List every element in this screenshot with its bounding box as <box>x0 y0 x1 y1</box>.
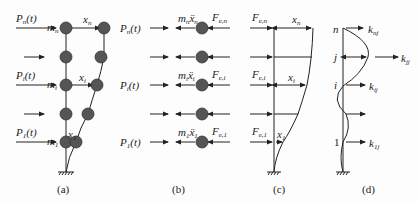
label-kij: kij <box>369 81 378 94</box>
label-c-xi: xi <box>288 72 295 85</box>
label-c-xn: xn <box>292 14 300 27</box>
caption-b: (b) <box>172 184 185 195</box>
label-P1: P1(t) <box>16 127 37 140</box>
deformed-column <box>66 28 104 172</box>
label-b-Pn: Pn(t) <box>120 23 141 36</box>
label-xi: xi <box>79 72 86 85</box>
label-b-Fei: Fe,i <box>212 69 226 82</box>
caption-d: (d) <box>362 184 375 195</box>
panel-c <box>250 28 313 175</box>
label-Pi: Pi(t) <box>16 70 35 83</box>
ground-hatch-icon <box>336 172 350 175</box>
label-m1: m1 <box>47 136 58 149</box>
ground-hatch-icon <box>267 172 281 175</box>
label-level-1: 1 <box>334 137 340 148</box>
label-mn: mn <box>47 22 58 35</box>
label-Pn: Pn(t) <box>16 13 37 26</box>
label-c-Fen: Fe,n <box>252 12 267 25</box>
label-c-Fe1: Fe,1 <box>252 126 267 139</box>
label-level-j: j <box>334 52 337 63</box>
label-c-x1: x1 <box>277 129 285 142</box>
label-b-Fen: Fe,n <box>212 12 227 25</box>
label-b-P1: P1(t) <box>120 137 141 150</box>
label-level-n: n <box>333 24 339 35</box>
diagram-drawing <box>0 0 419 204</box>
panel-a <box>16 28 104 175</box>
label-kjj: kjj <box>401 53 410 66</box>
label-xn: xn <box>83 14 91 27</box>
panel-d <box>336 28 398 175</box>
label-b-Fe1: Fe,1 <box>212 126 227 139</box>
structural-dynamics-figure: Pn(t) Pi(t) P1(t) mn mi m1 xn xi x1 Pn(t… <box>0 0 419 204</box>
label-k1j: k1j <box>369 138 379 151</box>
label-inertia-i: miẍi <box>178 70 195 83</box>
label-x1: x1 <box>68 129 76 142</box>
label-c-Fei: Fe,i <box>252 69 266 82</box>
ground-hatch-icon <box>58 172 74 175</box>
label-inertia-1: m1ẍ1 <box>178 127 198 140</box>
label-inertia-n: mnẍn <box>178 13 198 26</box>
label-b-Pi: Pi(t) <box>120 80 139 93</box>
label-level-i: i <box>334 80 337 91</box>
caption-c: (c) <box>273 184 285 195</box>
label-mi: mi <box>47 79 57 92</box>
label-knj: knj <box>368 24 378 37</box>
caption-a: (a) <box>57 184 69 195</box>
